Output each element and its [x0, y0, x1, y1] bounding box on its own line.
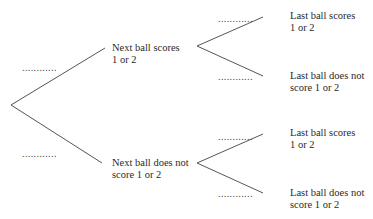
- branch-root-to-next-scores: [11, 48, 105, 105]
- leaf-upper-last-ball-does-not-score: Last ball does not score 1 or 2: [290, 70, 364, 94]
- node-label-line2: 1 or 2: [112, 54, 180, 66]
- probability-blank-next-not-scores[interactable]: ............: [22, 149, 57, 159]
- probability-blank-lower-last-scores[interactable]: ............: [218, 132, 253, 142]
- probability-blank-lower-last-not-scores[interactable]: ............: [218, 189, 253, 199]
- probability-blank-upper-last-not-scores[interactable]: ............: [218, 72, 253, 82]
- leaf-label-line2: score 1 or 2: [290, 199, 364, 211]
- leaf-label-line2: 1 or 2: [290, 139, 355, 151]
- leaf-label-line2: 1 or 2: [290, 22, 355, 34]
- leaf-label-line1: Last ball scores: [290, 127, 355, 139]
- leaf-label-line1: Last ball does not: [290, 70, 364, 82]
- probability-blank-next-scores[interactable]: ............: [22, 63, 57, 73]
- node-next-ball-does-not-score: Next ball does not score 1 or 2: [112, 157, 189, 181]
- node-label-line1: Next ball does not: [112, 157, 189, 169]
- node-label-line2: score 1 or 2: [112, 169, 189, 181]
- leaf-upper-last-ball-scores: Last ball scores 1 or 2: [290, 10, 355, 34]
- probability-blank-upper-last-scores[interactable]: ............: [218, 14, 253, 24]
- leaf-label-line2: score 1 or 2: [290, 82, 364, 94]
- node-next-ball-scores: Next ball scores 1 or 2: [112, 42, 180, 66]
- leaf-lower-last-ball-does-not-score: Last ball does not score 1 or 2: [290, 187, 364, 211]
- leaf-label-line1: Last ball scores: [290, 10, 355, 22]
- leaf-lower-last-ball-scores: Last ball scores 1 or 2: [290, 127, 355, 151]
- leaf-label-line1: Last ball does not: [290, 187, 364, 199]
- node-label-line1: Next ball scores: [112, 42, 180, 54]
